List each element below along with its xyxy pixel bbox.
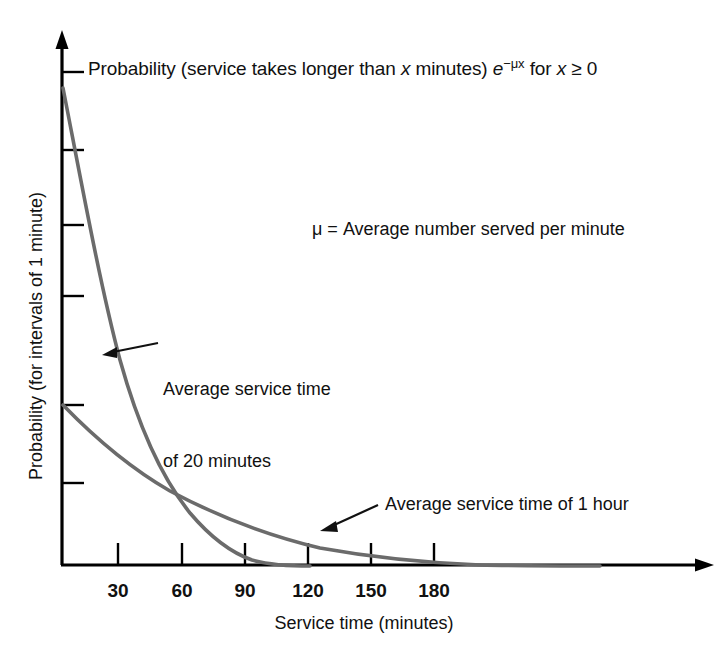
x-tick-label-150: 150	[355, 580, 387, 602]
x-tick-label-180: 180	[418, 580, 450, 602]
x-axis-ticks	[118, 543, 434, 565]
y-axis-title: Probability (for intervals of 1 minute)	[26, 192, 47, 480]
annotation-arrow-20-minutes	[102, 343, 158, 358]
annotation-label-20-minutes-line2: of 20 minutes	[163, 449, 331, 473]
annotation-label-20-minutes-line1: Average service time	[163, 377, 331, 401]
plot-title-main: Probability (service takes longer than x…	[88, 58, 503, 79]
y-axis-arrowhead	[56, 30, 69, 49]
exponential-decay-plot	[0, 0, 728, 649]
x-tick-label-60: 60	[171, 580, 192, 602]
x-tick-label-30: 30	[107, 580, 128, 602]
plot-title-exponent: −μx	[503, 56, 524, 71]
x-axis-title: Service time (minutes)	[274, 613, 453, 634]
mu-definition-note: μ = Average number served per minute	[312, 219, 625, 240]
plot-title: Probability (service takes longer than x…	[88, 56, 597, 80]
annotation-label-1-hour: Average service time of 1 hour	[385, 494, 629, 515]
figure-canvas: Probability (service takes longer than x…	[0, 0, 728, 649]
x-tick-label-120: 120	[292, 580, 324, 602]
annotation-label-20-minutes: Average service time of 20 minutes	[163, 329, 331, 521]
plot-title-tail: for x ≥ 0	[525, 58, 598, 79]
x-tick-label-90: 90	[234, 580, 255, 602]
x-axis-arrowhead	[695, 559, 714, 572]
axes-group	[56, 30, 715, 572]
